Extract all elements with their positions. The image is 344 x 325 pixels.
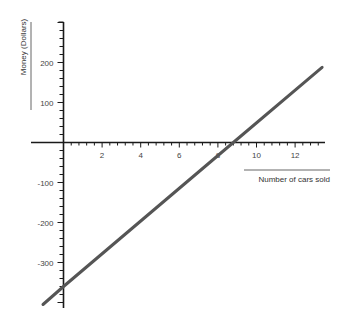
y-tick-label: -200 <box>37 219 54 228</box>
y-tick-label: -300 <box>37 259 54 268</box>
x-tick-label: 2 <box>100 151 105 160</box>
y-tick-label: -100 <box>37 179 54 188</box>
x-tick-label: 12 <box>291 151 300 160</box>
x-tick-label: 10 <box>252 151 261 160</box>
x-tick-label: 6 <box>177 151 182 160</box>
profit-line <box>43 67 322 304</box>
series <box>43 67 322 304</box>
x-axis-title: Number of cars sold <box>258 175 330 184</box>
y-tick-label: 100 <box>40 99 54 108</box>
x-tick-label: 4 <box>138 151 143 160</box>
axes <box>31 22 325 308</box>
tick-labels: 24681012200100-100-200-300 <box>37 59 300 268</box>
y-axis-title: Money (Dollars) <box>19 18 28 75</box>
chart: Money (Dollars) Number of cars sold 2468… <box>0 0 344 325</box>
y-tick-label: 200 <box>40 59 54 68</box>
